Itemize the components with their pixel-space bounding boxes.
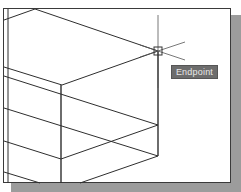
edge-line bbox=[80, 156, 158, 183]
isometric-box-drawing[interactable] bbox=[0, 0, 241, 192]
edge-line bbox=[35, 9, 158, 51]
edge-line bbox=[4, 67, 62, 85]
edge-line bbox=[4, 141, 61, 159]
edge-line bbox=[4, 76, 158, 125]
edge-line bbox=[4, 172, 40, 183]
osnap-tooltip: Endpoint bbox=[171, 65, 218, 79]
edge-line bbox=[4, 9, 35, 20]
